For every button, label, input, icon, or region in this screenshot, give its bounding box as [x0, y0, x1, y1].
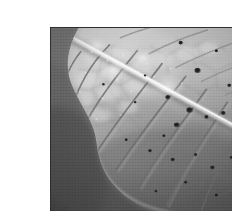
leaf-photo-canvas [51, 28, 232, 211]
screenshot-page: Grayscale macro photograph of the unders… [0, 0, 232, 211]
leaf-photograph: Grayscale macro photograph of the unders… [50, 27, 232, 211]
